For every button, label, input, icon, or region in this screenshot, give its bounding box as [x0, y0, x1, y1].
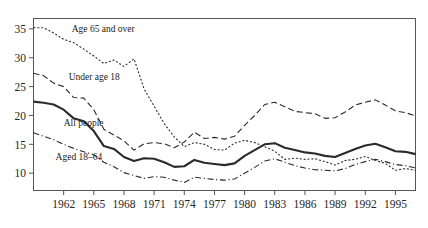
x-tick-label-1971: 1971	[143, 198, 166, 210]
x-tick-label-1968: 1968	[112, 198, 135, 210]
x-tick-label-1977: 1977	[203, 198, 226, 210]
line-chart-canvas: 101520253035 196219651968197119741977198…	[0, 0, 428, 228]
y-tick-label-20: 20	[15, 110, 27, 122]
series-label-all-people: All people	[64, 118, 104, 128]
y-tick-label-15: 15	[15, 139, 27, 151]
x-tick-label-1992: 1992	[354, 198, 377, 210]
x-tick-label-1980: 1980	[233, 198, 256, 210]
x-tick-label-1974: 1974	[173, 198, 196, 210]
x-tick-label-1965: 1965	[82, 198, 105, 210]
x-tick-label-1986: 1986	[293, 198, 316, 210]
y-axis-tick-labels: 101520253035	[15, 23, 27, 179]
series-label-under-age-18: Under age 18	[69, 72, 120, 82]
x-tick-label-1983: 1983	[263, 198, 286, 210]
y-tick-label-30: 30	[15, 52, 27, 64]
series-label-age-65-and-over: Age 65 and over	[72, 24, 136, 34]
x-tick-label-1989: 1989	[324, 198, 347, 210]
series-line-under-age-18	[34, 73, 416, 150]
y-tick-label-25: 25	[15, 81, 27, 93]
y-tick-label-10: 10	[15, 167, 27, 179]
series-label-aged-18-64: Aged 18–64	[56, 152, 103, 162]
x-axis-tick-labels: 1962196519681971197419771980198319861989…	[52, 198, 407, 210]
series-inline-labels: Age 65 and overUnder age 18All peopleAge…	[56, 24, 136, 163]
x-tick-label-1962: 1962	[52, 198, 75, 210]
y-tick-label-35: 35	[15, 23, 27, 35]
x-tick-label-1995: 1995	[384, 198, 407, 210]
chart-figure: 101520253035 196219651968197119741977198…	[0, 0, 428, 228]
